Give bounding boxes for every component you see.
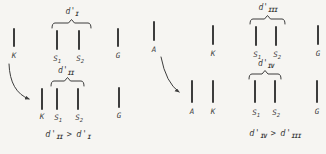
label-left-bottom-g: G xyxy=(117,112,122,122)
bar-left-top-s2 xyxy=(78,30,80,50)
bar-right-top-k xyxy=(212,25,214,45)
bar-right-bottom-g xyxy=(316,80,318,103)
shift-arrow-right xyxy=(161,57,179,92)
overbrace-right-bottom xyxy=(249,71,281,80)
dprime-label-left-bottom: d'II xyxy=(58,67,74,76)
overbrace-left-top xyxy=(52,20,91,29)
bar-left-bottom-s2 xyxy=(77,88,79,110)
label-left-top-s2: S2 xyxy=(76,55,83,65)
bar-left-top-k xyxy=(13,28,15,47)
label-right-bottom-k: K xyxy=(211,108,216,118)
bar-right-top-s2 xyxy=(275,26,277,46)
overbrace-right-top xyxy=(250,16,285,25)
dprime-label-left-top: d'I xyxy=(66,8,79,17)
dprime-label-right-bottom: d'IV xyxy=(258,60,274,69)
bar-right-bottom-k xyxy=(212,80,214,103)
label-right-bottom-g: G xyxy=(315,108,320,118)
label-left-bottom-s2: S2 xyxy=(75,114,82,124)
bar-left-bottom-k xyxy=(41,88,43,110)
label-left-bottom-k: K xyxy=(40,113,45,123)
bar-right-top-a xyxy=(153,21,155,41)
label-right-bottom-s1: S1 xyxy=(252,109,259,119)
overbrace-left-bottom xyxy=(51,78,84,87)
label-right-bottom-a: A xyxy=(190,108,195,118)
bar-right-top-s1 xyxy=(255,26,257,46)
dprime-label-right-top: d'III xyxy=(259,4,278,13)
label-right-top-k: K xyxy=(211,50,216,60)
dprime-shift-diagram: K S1 S2 G K S1 S2 G A K S1 S2 G A K S1 S… xyxy=(0,0,326,154)
bar-right-bottom-s1 xyxy=(254,80,256,103)
shift-arrow-left xyxy=(9,64,29,99)
label-right-bottom-s2: S2 xyxy=(272,109,279,119)
bar-right-bottom-s2 xyxy=(274,80,276,103)
label-left-top-k: K xyxy=(12,52,17,62)
bar-right-bottom-a xyxy=(191,80,193,103)
label-left-bottom-s1: S1 xyxy=(54,114,61,124)
bar-left-bottom-g xyxy=(118,87,120,108)
label-right-top-a: A xyxy=(152,46,157,56)
label-left-top-g: G xyxy=(116,52,121,62)
bar-right-top-g xyxy=(317,25,319,45)
label-right-top-s2: S2 xyxy=(273,51,280,61)
label-right-top-g: G xyxy=(316,50,321,60)
conclusion-left: d'II>d'I xyxy=(45,130,90,140)
bar-left-top-g xyxy=(117,28,119,47)
bar-left-top-s1 xyxy=(56,30,58,50)
bar-left-bottom-s1 xyxy=(56,88,58,110)
label-left-top-s1: S1 xyxy=(53,55,60,65)
conclusion-right: d'IV>d'III xyxy=(249,129,301,139)
